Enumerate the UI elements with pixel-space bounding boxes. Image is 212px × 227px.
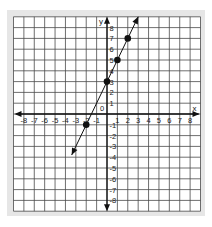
y-tick-label: -2 [110,132,117,141]
x-axis-label: x [193,104,197,113]
y-tick-label: 6 [110,45,114,54]
data-point [104,78,111,85]
y-tick-label: -1 [110,121,117,130]
x-tick-label: -8 [21,116,28,125]
y-tick-label: -4 [110,153,117,162]
x-tick-label: 6 [167,116,171,125]
y-tick-label: -5 [110,164,117,173]
y-tick-label: -8 [110,196,117,205]
y-tick-label: -3 [110,142,117,151]
x-tick-label: 3 [136,116,140,125]
x-tick-label: 7 [178,116,182,125]
y-tick-label: 8 [110,24,114,33]
y-tick-label: 5 [110,56,114,65]
x-tick-label: -1 [93,116,100,125]
y-tick-label: 2 [110,88,114,97]
data-point [83,122,90,129]
y-tick-label: -7 [110,186,117,195]
y-tick-label: 7 [110,34,114,43]
y-axis-label: y [99,17,103,26]
x-tick-label: -7 [31,116,38,125]
y-tick-label: -6 [110,175,117,184]
x-tick-label: 2 [126,116,130,125]
y-tick-label: 1 [110,99,114,108]
x-tick-label: 8 [188,116,192,125]
origin-label: 0 [100,104,104,113]
coordinate-plane: -8-7-6-5-4-3-2-112345678 87654321-1-2-3-… [0,0,212,227]
data-point [124,35,131,42]
x-tick-label: -5 [52,116,59,125]
x-tick-label: -4 [62,116,69,125]
x-tick-label: 4 [146,116,150,125]
x-tick-label: -3 [72,116,79,125]
data-point [114,57,121,64]
x-tick-label: 5 [157,116,161,125]
x-tick-label: -6 [41,116,48,125]
